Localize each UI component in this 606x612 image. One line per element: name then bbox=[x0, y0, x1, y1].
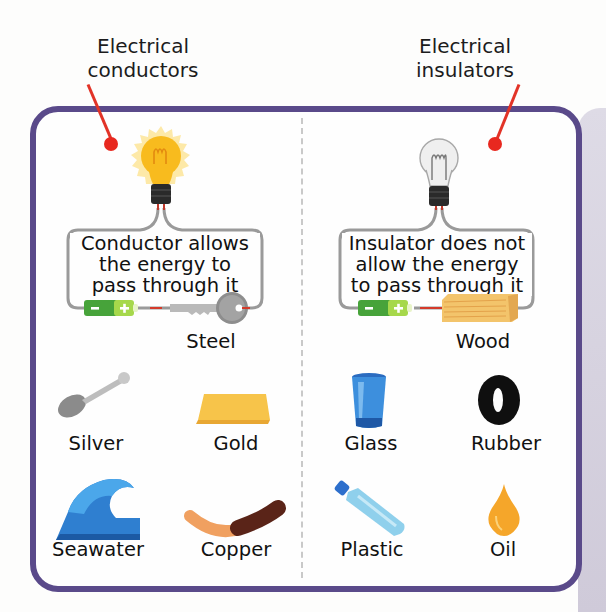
insulator-explanation: Insulator does not allow the energy to p… bbox=[342, 233, 532, 296]
battery-icon bbox=[358, 298, 418, 318]
insulator-explanation-line1: Insulator does not bbox=[342, 233, 532, 254]
tyre-icon bbox=[474, 372, 524, 428]
material-label-silver: Silver bbox=[50, 432, 142, 455]
oil-drop-icon bbox=[484, 482, 524, 538]
plastic-bottle-icon bbox=[334, 478, 414, 538]
material-label-gold: Gold bbox=[190, 432, 282, 455]
material-label-glass: Glass bbox=[328, 432, 414, 455]
unlit-bulb-icon bbox=[414, 134, 464, 224]
material-label-oil: Oil bbox=[468, 538, 538, 561]
spoon-icon bbox=[54, 370, 134, 430]
material-label-plastic: Plastic bbox=[326, 538, 418, 561]
gold-bar-icon bbox=[196, 390, 276, 430]
material-label-copper: Copper bbox=[190, 538, 282, 561]
wave-icon bbox=[54, 474, 144, 544]
insulator-explanation-line2: allow the energy bbox=[342, 254, 532, 275]
material-label-seawater: Seawater bbox=[46, 538, 150, 561]
material-label-rubber: Rubber bbox=[460, 432, 552, 455]
wood-label: Wood bbox=[448, 330, 518, 353]
insulator-explanation-line3: to pass through it bbox=[342, 275, 532, 296]
glass-cup-icon bbox=[348, 372, 392, 432]
copper-wire-icon bbox=[186, 502, 286, 542]
wood-block-icon bbox=[442, 294, 522, 324]
